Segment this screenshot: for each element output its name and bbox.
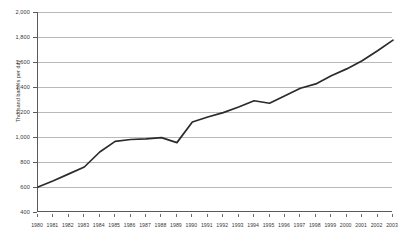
x-axis-tick-label: 2000 [340, 222, 352, 228]
x-axis-tick-label: 1987 [139, 222, 151, 228]
x-axis-tick-label: 1991 [201, 222, 213, 228]
x-axis-tick-label: 1993 [232, 222, 244, 228]
x-axis-tick [176, 214, 177, 217]
x-axis-tick [68, 214, 69, 217]
x-axis-tick-label: 1980 [31, 222, 43, 228]
x-axis-tick [269, 214, 270, 217]
x-axis-tick [392, 214, 393, 217]
x-axis-tick-label: 2002 [371, 222, 383, 228]
x-axis-tick-label: 1984 [93, 222, 105, 228]
y-axis-tick-label: 1,800 [16, 34, 31, 40]
x-axis-tick [99, 214, 100, 217]
x-axis-tick-label: 1986 [124, 222, 136, 228]
x-axis-tick [361, 214, 362, 217]
x-axis-tick [346, 214, 347, 217]
x-axis-tick [130, 214, 131, 217]
x-axis-tick-label: 1999 [324, 222, 336, 228]
y-axis-labels: 2,0001,8001,6001,4001,2001,000800600400 [0, 0, 37, 248]
x-axis-tick-label: 1990 [185, 222, 197, 228]
x-axis-tick [330, 214, 331, 217]
x-axis-tick [52, 214, 53, 217]
y-axis-tick-label: 1,000 [16, 134, 31, 140]
x-axis-tick-label: 2003 [386, 222, 398, 228]
y-axis-tick-label: 1,200 [16, 109, 31, 115]
plot-area [37, 12, 392, 212]
x-axis-tick-label: 1988 [155, 222, 167, 228]
x-axis-tick [160, 214, 161, 217]
x-axis-tick-label: 1989 [170, 222, 182, 228]
x-axis-tick-label: 1981 [47, 222, 59, 228]
data-line-series [38, 12, 393, 212]
x-axis-tick [191, 214, 192, 217]
x-axis-tick-label: 1982 [62, 222, 74, 228]
x-axis-tick-label: 1992 [216, 222, 228, 228]
x-axis-tick [222, 214, 223, 217]
x-axis-tick [83, 214, 84, 217]
x-axis-tick [315, 214, 316, 217]
x-axis-tick [114, 214, 115, 217]
x-axis-tick [253, 214, 254, 217]
x-axis-tick [207, 214, 208, 217]
x-axis-tick-label: 1996 [278, 222, 290, 228]
x-axis-tick [145, 214, 146, 217]
x-axis-tick-label: 1985 [108, 222, 120, 228]
x-axis-tick [377, 214, 378, 217]
x-axis-tick [284, 214, 285, 217]
y-axis-tick-label: 400 [20, 209, 30, 215]
y-axis-tick-label: 1,400 [16, 84, 31, 90]
chart-container: Thousand barrels per day 2,0001,8001,600… [0, 0, 406, 248]
x-axis-labels: 1980198119821983198419851986198719881989… [37, 214, 392, 236]
x-axis-tick [299, 214, 300, 217]
x-axis-tick [238, 214, 239, 217]
x-axis-tick-label: 1994 [247, 222, 259, 228]
x-axis-tick-label: 1983 [77, 222, 89, 228]
x-axis-tick-label: 2001 [355, 222, 367, 228]
x-axis-tick [37, 214, 38, 217]
y-axis-tick-label: 800 [20, 159, 30, 165]
y-axis-tick-label: 1,600 [16, 59, 31, 65]
x-axis-tick-label: 1998 [309, 222, 321, 228]
y-axis-tick-label: 2,000 [16, 9, 31, 15]
x-axis-tick-label: 1997 [294, 222, 306, 228]
y-axis-tick [33, 212, 37, 213]
x-axis-tick-label: 1995 [263, 222, 275, 228]
y-axis-tick-label: 600 [20, 184, 30, 190]
